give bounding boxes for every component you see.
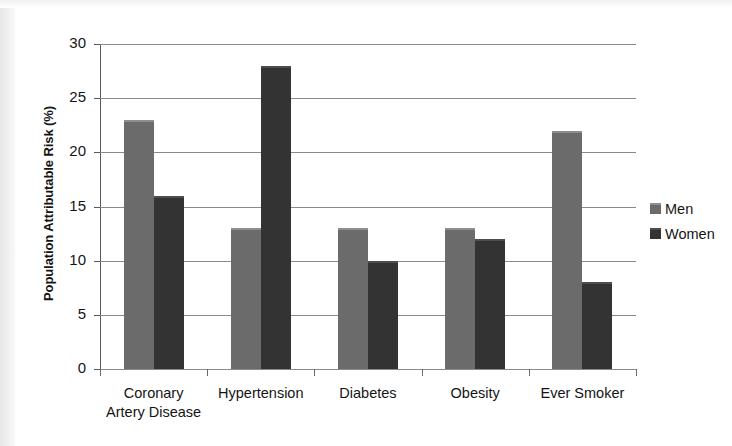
legend-label: Men — [665, 201, 693, 217]
y-tick-label: 15 — [42, 197, 86, 214]
x-tick-mark — [422, 369, 423, 376]
legend-swatch-icon — [650, 228, 661, 239]
legend-label: Women — [665, 226, 715, 242]
bar-women-4 — [582, 282, 612, 369]
y-tick-mark — [94, 315, 100, 316]
x-category-label: Ever Smoker — [529, 384, 636, 403]
x-category-label-line: Obesity — [422, 384, 529, 403]
y-tick-label: 30 — [42, 34, 86, 51]
y-tick-mark — [94, 44, 100, 45]
bar-men-4 — [552, 131, 582, 369]
bar-men-3 — [445, 228, 475, 369]
chart-legend: MenWomen — [650, 196, 730, 246]
x-tick-mark — [314, 369, 315, 376]
y-tick-mark — [94, 98, 100, 99]
bar-women-2 — [368, 261, 398, 369]
gridline — [100, 44, 636, 45]
y-tick-mark — [94, 152, 100, 153]
y-tick-mark — [94, 261, 100, 262]
legend-item-men: Men — [650, 196, 730, 221]
bar-women-1 — [261, 66, 291, 369]
bar-men-0 — [124, 120, 154, 369]
x-tick-mark — [636, 369, 637, 376]
bar-chart-figure: Population Attributable Risk (%) 0510152… — [0, 0, 732, 446]
bar-men-2 — [338, 228, 368, 369]
y-tick-label: 20 — [42, 142, 86, 159]
x-tick-mark — [207, 369, 208, 376]
x-tick-mark — [100, 369, 101, 376]
x-category-label: Hypertension — [207, 384, 314, 403]
gridline — [100, 98, 636, 99]
y-tick-mark — [94, 207, 100, 208]
x-category-label-line: Artery Disease — [100, 403, 207, 422]
legend-item-women: Women — [650, 221, 730, 246]
y-tick-label: 25 — [42, 88, 86, 105]
x-category-label: CoronaryArtery Disease — [100, 384, 207, 422]
y-tick-label: 10 — [42, 251, 86, 268]
x-category-label: Obesity — [422, 384, 529, 403]
legend-swatch-icon — [650, 203, 661, 214]
bar-men-1 — [231, 228, 261, 369]
x-category-label-line: Coronary — [100, 384, 207, 403]
gridline — [100, 369, 636, 370]
y-tick-label: 0 — [42, 359, 86, 376]
x-category-label-line: Diabetes — [314, 384, 421, 403]
y-tick-label: 5 — [42, 305, 86, 322]
plot-area: 051015202530 — [100, 44, 636, 369]
bar-women-3 — [475, 239, 505, 369]
x-category-label-line: Hypertension — [207, 384, 314, 403]
x-tick-mark — [529, 369, 530, 376]
x-category-label-line: Ever Smoker — [529, 384, 636, 403]
x-category-label: Diabetes — [314, 384, 421, 403]
bar-women-0 — [154, 196, 184, 369]
